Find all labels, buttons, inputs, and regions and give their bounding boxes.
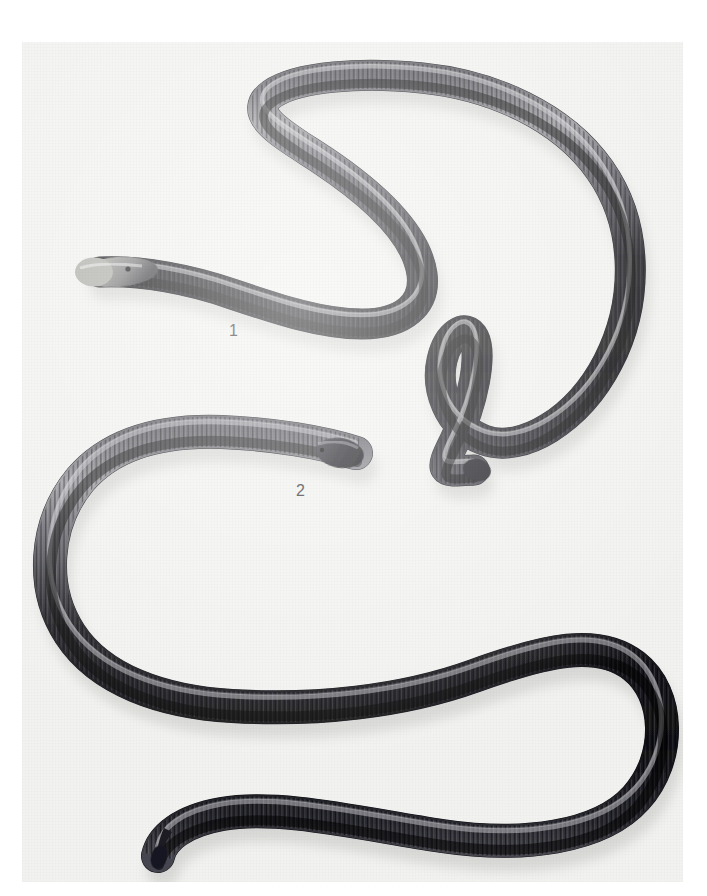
eye-1 [125, 266, 130, 271]
specimen-2 [49, 419, 663, 870]
specimen-label-1: 1 [229, 323, 238, 339]
specimen-label-2: 2 [296, 483, 305, 499]
eye-2 [320, 448, 324, 452]
photograph-area: 1 2 [22, 42, 683, 882]
specimen-plate: 1 2 [0, 0, 707, 896]
specimen-illustration [22, 42, 683, 882]
annulation-rings-2 [50, 432, 662, 856]
